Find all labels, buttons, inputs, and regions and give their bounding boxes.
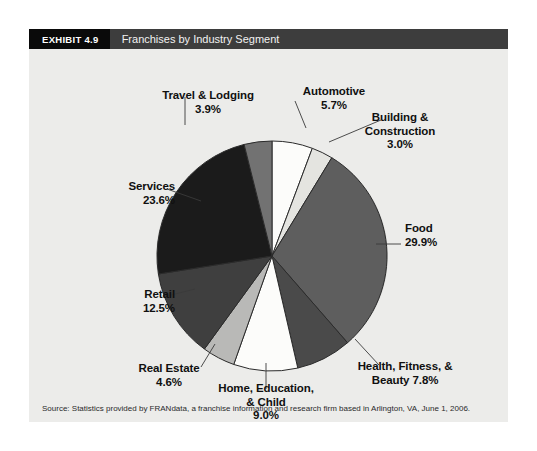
exhibit-number-label: EXHIBIT 4.9 (29, 29, 110, 49)
exhibit-title: Franchises by Industry Segment (110, 29, 508, 49)
slice-label-food: Food 29.9% (405, 222, 505, 249)
pie-slice-group (157, 141, 387, 371)
source-note: Source: Statistics provided by FRANdata,… (42, 403, 498, 414)
exhibit-header: EXHIBIT 4.9 Franchises by Industry Segme… (29, 29, 508, 49)
slice-label-health-fitness-beauty: Health, Fitness, & Beauty 7.8% (325, 360, 485, 387)
slice-label-building-construction: Building & Construction 3.0% (335, 111, 465, 152)
pie-chart: Travel & Lodging 3.9% Automotive 5.7% Bu… (29, 49, 508, 399)
slice-label-travel-lodging: Travel & Lodging 3.9% (133, 89, 283, 116)
slice-label-automotive: Automotive 5.7% (274, 85, 394, 112)
exhibit-panel: EXHIBIT 4.9 Franchises by Industry Segme… (29, 29, 508, 422)
slice-label-real-estate: Real Estate 4.6% (109, 362, 229, 389)
slice-label-services: Services 23.6% (65, 180, 175, 207)
slice-label-retail: Retail 12.5% (73, 288, 175, 315)
